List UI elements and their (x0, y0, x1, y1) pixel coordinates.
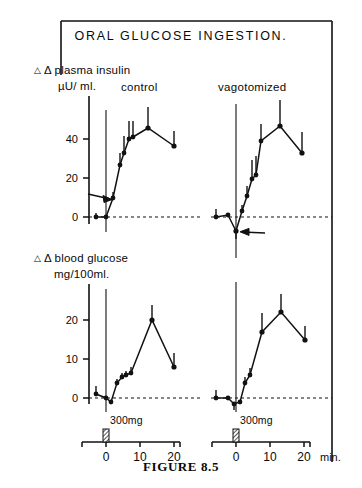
glucose-ytick-10: 10 (52, 353, 78, 365)
figure-caption: FIGURE 8.5 (0, 459, 362, 475)
insulin-axis-unit: µU/ ml. (58, 80, 96, 92)
glucose-ytick-20: 20 (52, 314, 78, 326)
figure-title: ORAL GLUCOSE INGESTION. (0, 29, 362, 43)
insulin-series-vagotomized (214, 100, 305, 239)
glucose-axis-unit: mg/100ml. (54, 268, 110, 280)
x-axis-vagotomized (212, 442, 310, 447)
insulin-ytick-0: 0 (52, 211, 78, 223)
insulin-arrow-control (88, 194, 112, 203)
insulin-axis-label-text: Δ plasma insulin (44, 64, 130, 76)
insulin-y-ticks (83, 139, 89, 217)
insulin-axis-label: △ Δ plasma insulin (34, 64, 130, 76)
x-axis-control (82, 442, 180, 447)
dose-box-vagotomized (233, 429, 239, 442)
glucose-series-vagotomized (214, 294, 308, 410)
panel-label-vagotomized: vagotomized (218, 81, 287, 93)
dose-box-control (103, 429, 109, 442)
glucose-ytick-0: 0 (52, 392, 78, 404)
insulin-chart (83, 96, 332, 258)
glucose-axis-label-text: Δ blood glucose (44, 252, 128, 264)
dose-label-control: 300mg (110, 414, 143, 426)
insulin-arrow-vagotomized (240, 228, 265, 235)
insulin-ytick-40: 40 (52, 133, 78, 145)
glucose-y-ticks (83, 320, 89, 398)
panel-label-control: control (121, 81, 158, 93)
dose-label-vagotomized: 300mg (240, 414, 273, 426)
insulin-ytick-20: 20 (52, 172, 78, 184)
glucose-axis-label: △ Δ blood glucose (34, 252, 128, 264)
glucose-chart (83, 282, 332, 412)
